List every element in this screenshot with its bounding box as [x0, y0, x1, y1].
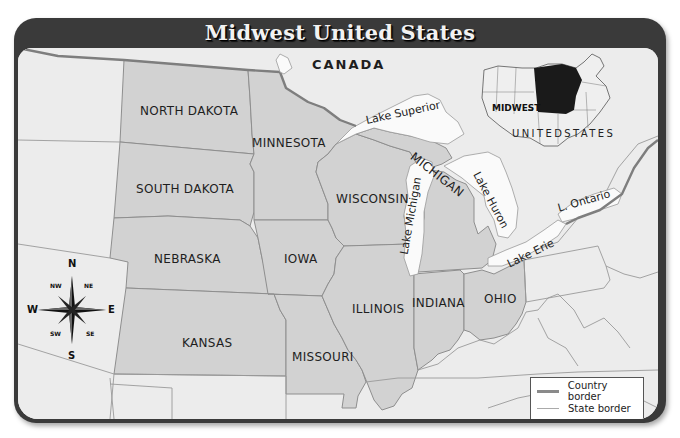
state-border-swatch-icon: [537, 408, 559, 409]
map-legend: Country border State border: [530, 377, 644, 419]
label-minnesota: MINNESOTA: [252, 136, 326, 150]
compass-se: SE: [86, 330, 94, 337]
map-title: Midwest United States: [14, 18, 666, 48]
compass-sw: SW: [50, 330, 61, 337]
label-iowa: IOWA: [284, 252, 318, 266]
legend-label: State border: [568, 403, 631, 414]
map-area: CANADA NORTH DAKOTA MINNESOTA SOUTH DAKO…: [18, 48, 658, 419]
inset-midwest-label: MIDWEST: [492, 103, 540, 113]
label-missouri: MISSOURI: [292, 350, 354, 364]
label-north-dakota: NORTH DAKOTA: [140, 104, 238, 118]
legend-label: Country border: [568, 380, 643, 402]
legend-item-country-border: Country border: [537, 384, 643, 398]
state-kansas: [114, 288, 286, 376]
inset-us-label: UNITEDSTATES: [512, 128, 615, 139]
label-nebraska: NEBRASKA: [154, 252, 221, 266]
label-indiana: INDIANA: [412, 296, 465, 310]
compass-s: S: [68, 350, 75, 361]
map-frame: Midwest United States: [14, 18, 666, 423]
label-south-dakota: SOUTH DAKOTA: [136, 182, 234, 196]
label-kansas: KANSAS: [182, 336, 232, 350]
compass-n: N: [68, 258, 76, 269]
legend-item-state-border: State border: [537, 401, 631, 415]
label-illinois: ILLINOIS: [352, 302, 404, 316]
label-wisconsin: WISCONSIN: [336, 192, 409, 206]
compass-ne: NE: [84, 282, 93, 289]
compass-w: W: [27, 304, 38, 315]
compass-nw: NW: [50, 282, 62, 289]
country-border-swatch-icon: [537, 390, 559, 393]
compass-e: E: [108, 304, 115, 315]
label-canada: CANADA: [312, 57, 385, 72]
label-ohio: OHIO: [484, 292, 517, 306]
